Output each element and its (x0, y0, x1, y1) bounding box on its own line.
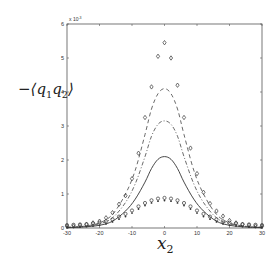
chart-canvas: -30-20-1001020300123456x 10-3 (0, 0, 280, 267)
y-axis-label: −⟨q1q2⟩ (18, 80, 74, 100)
series-solid-line (67, 157, 262, 228)
point-marker (105, 223, 107, 225)
point-marker (203, 216, 205, 218)
point-marker (99, 224, 101, 226)
x-tick-label: -30 (63, 230, 71, 236)
point-marker (222, 223, 224, 225)
point-marker (255, 226, 257, 228)
diamond-marker (208, 201, 211, 205)
point-marker (248, 226, 250, 228)
circle-marker (195, 209, 198, 212)
point-marker (183, 205, 185, 207)
point-marker (170, 200, 172, 202)
point-marker (157, 200, 159, 202)
diamond-marker (150, 85, 153, 89)
x-axis-label: x2 (157, 233, 174, 256)
diamond-marker (104, 216, 107, 220)
circle-marker (156, 197, 159, 200)
diamond-marker (143, 115, 146, 119)
plot-series (65, 41, 263, 229)
circle-marker (163, 196, 166, 199)
circle-marker (176, 199, 179, 202)
point-marker (86, 226, 88, 228)
point-marker (125, 216, 127, 218)
point-marker (261, 227, 263, 229)
circle-marker (124, 212, 127, 215)
y-tick-label: 5 (61, 55, 64, 61)
x-tick-label: -20 (96, 230, 104, 236)
point-marker (151, 202, 153, 204)
y-multiplier-label: x 10-3 (69, 16, 82, 22)
diamond-marker (221, 214, 224, 218)
point-marker (138, 208, 140, 210)
x-tick-label: 20 (226, 230, 232, 236)
point-marker (118, 218, 120, 220)
point-marker (209, 218, 211, 220)
diamond-marker (195, 171, 198, 175)
x-tick-label: -10 (128, 230, 136, 236)
point-marker (144, 205, 146, 207)
point-marker (112, 221, 114, 223)
circle-marker (189, 205, 192, 208)
circle-marker (182, 201, 185, 204)
plot-frame (67, 24, 262, 228)
point-marker (92, 225, 94, 227)
circle-marker (137, 205, 140, 208)
diamond-marker (176, 83, 179, 87)
point-marker (177, 202, 179, 204)
point-marker (196, 212, 198, 214)
diamond-marker (169, 56, 172, 60)
y-tick-label: 3 (61, 123, 64, 129)
point-marker (164, 200, 166, 202)
point-marker (229, 224, 231, 226)
y-tick-label: 6 (61, 21, 64, 27)
circle-marker (143, 201, 146, 204)
diamond-marker (163, 41, 166, 45)
series-dashdot-line (67, 121, 262, 227)
x-tick-label: 30 (259, 230, 265, 236)
circle-marker (130, 209, 133, 212)
circle-marker (169, 197, 172, 200)
series-dashed-line (67, 89, 262, 228)
diamond-marker (156, 54, 159, 58)
circle-marker (150, 199, 153, 202)
y-tick-label: 1 (61, 191, 64, 197)
y-tick-label: 0 (61, 225, 64, 231)
diamond-marker (182, 115, 185, 119)
diamond-marker (189, 146, 192, 150)
point-marker (242, 226, 244, 228)
y-tick-label: 2 (61, 157, 64, 163)
point-marker (131, 212, 133, 214)
point-marker (235, 225, 237, 227)
plot-axes: -30-20-1001020300123456x 10-3 (61, 16, 265, 236)
x-tick-label: 10 (194, 230, 200, 236)
point-marker (79, 226, 81, 228)
point-marker (190, 208, 192, 210)
point-marker (73, 226, 75, 228)
circle-marker (202, 212, 205, 215)
point-marker (66, 227, 68, 229)
point-marker (216, 221, 218, 223)
